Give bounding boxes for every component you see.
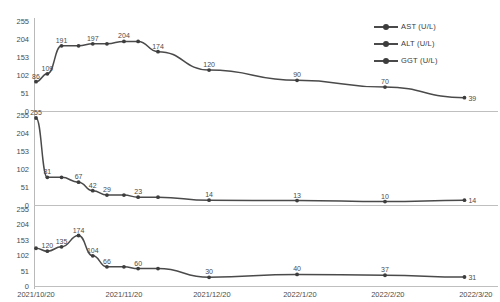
- data-point-label: 31: [468, 274, 476, 281]
- data-point-label: 42: [89, 182, 97, 189]
- data-point-label: 81: [43, 168, 51, 175]
- data-point-label: 90: [293, 71, 301, 78]
- x-tick-label: 2021/11/20: [105, 290, 142, 299]
- data-point-label: 13: [293, 192, 301, 199]
- x-tick-label: 2022/2/20: [371, 290, 404, 299]
- y-tick-label: 255: [16, 111, 29, 120]
- y-tick-label: 102: [16, 165, 29, 174]
- y-tick-label: 51: [21, 183, 29, 192]
- plot-area-ast: 86109191197204174120907039: [34, 18, 498, 114]
- data-point-label: 174: [152, 43, 164, 50]
- y-tick-label: 102: [16, 71, 29, 80]
- x-tick-label: 2021/12/20: [193, 290, 231, 299]
- data-point-label: 255: [30, 109, 42, 116]
- data-point-label: 104: [87, 247, 99, 254]
- data-point-label: 10: [381, 193, 389, 200]
- y-tick-label: 255: [16, 17, 29, 26]
- data-point-label: 174: [73, 227, 85, 234]
- data-point-label: 29: [103, 186, 111, 193]
- data-point-label: 14: [205, 191, 213, 198]
- y-tick-label: 204: [16, 220, 29, 229]
- y-axis-ggt: 051102153204255: [0, 206, 32, 302]
- y-tick-label: 51: [21, 266, 29, 275]
- data-point-label: 23: [134, 188, 142, 195]
- series-line-alt: [34, 112, 498, 208]
- data-point-label: 70: [381, 78, 389, 85]
- y-axis-ast: 051102153204255: [0, 18, 32, 116]
- plot-area-ggt: 120135174104666030403731: [34, 206, 498, 289]
- data-point-label: 135: [56, 238, 68, 245]
- data-point-label: 197: [87, 35, 99, 42]
- data-point-label: 66: [103, 258, 111, 265]
- x-tick-label: 2022/1/20: [283, 290, 316, 299]
- y-tick-label: 102: [16, 251, 29, 260]
- data-point-label: 37: [381, 266, 389, 273]
- y-tick-label: 204: [16, 129, 29, 138]
- x-tick-label: 2022/3/20: [459, 290, 492, 299]
- y-tick-label: 153: [16, 147, 29, 156]
- data-point-label: 30: [205, 268, 213, 275]
- y-axis-alt: 051102153204255: [0, 112, 32, 210]
- data-point-label: 120: [203, 61, 215, 68]
- chart-panel-alt: 051102153204255255816742292314131014: [0, 112, 500, 210]
- data-point-label: 39: [468, 94, 476, 101]
- series-line-ast: [34, 18, 498, 114]
- plot-area-alt: 255816742292314131014: [34, 112, 498, 208]
- y-tick-label: 204: [16, 35, 29, 44]
- data-point-label: 120: [42, 242, 54, 249]
- chart-panel-ggt: 0511021532042551201351741046660304037312…: [0, 206, 500, 302]
- data-point-label: 67: [75, 173, 83, 180]
- y-tick-label: 153: [16, 235, 29, 244]
- data-point-label: 40: [293, 265, 301, 272]
- y-tick-label: 153: [16, 53, 29, 62]
- y-tick-label: 255: [16, 205, 29, 214]
- series-line-ggt: [34, 206, 498, 289]
- data-point-label: 14: [468, 197, 476, 204]
- y-tick-label: 51: [21, 89, 29, 98]
- x-tick-label: 2021/10/20: [17, 290, 55, 299]
- data-point-label: 204: [118, 32, 130, 39]
- data-point-label: 109: [42, 65, 54, 72]
- data-point-label: 60: [134, 260, 142, 267]
- chart-panel-ast: 0511021532042558610919119720417412090703…: [0, 18, 500, 116]
- data-point-label: 86: [32, 73, 40, 80]
- chart-page: AST (U/L) ALT (U/L) GGT (U/L) 0511021532…: [0, 0, 500, 302]
- data-point-label: 191: [56, 37, 68, 44]
- x-axis-labels: 2021/10/202021/11/202021/12/202022/1/202…: [34, 290, 498, 302]
